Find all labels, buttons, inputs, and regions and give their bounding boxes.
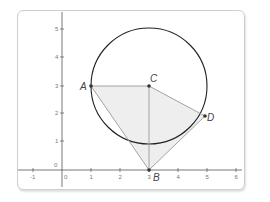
y-tick-label: 4 [55,54,59,60]
point-label-c: C [150,73,158,84]
y-tick-label: 3 [55,83,59,89]
x-axis-tick-labels: -1 0 1 2 3 4 5 6 [30,174,239,180]
y-tick-label: 0 [54,162,58,168]
point-label-a: A [79,81,87,92]
x-tick-label: 0 [64,174,68,180]
point-a [89,84,93,88]
x-tick-label: 2 [119,174,123,180]
x-tick-label: 4 [177,174,181,180]
point-b [147,168,151,172]
point-c [147,84,151,88]
x-tick-label: 5 [206,174,210,180]
x-tick-label: 1 [90,174,94,180]
y-tick-label: 1 [55,138,59,144]
y-tick-label: 2 [55,110,59,116]
point-label-d: D [207,112,214,123]
coordinate-plane: -1 0 1 2 3 4 5 6 0 1 2 3 4 5 [0,0,270,202]
shaded-region [91,86,205,170]
y-tick-label: 5 [55,26,59,32]
x-tick-label: 3 [148,174,152,180]
x-tick-label: 6 [235,174,239,180]
x-tick-label: -1 [30,174,36,180]
point-label-b: B [153,172,160,183]
y-axis-tick-labels: 0 1 2 3 4 5 [54,26,59,168]
